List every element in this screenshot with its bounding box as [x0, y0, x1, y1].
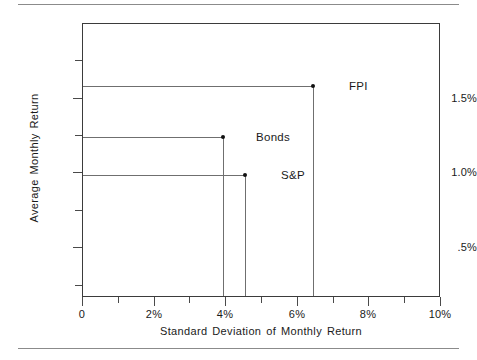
data-point-marker	[243, 173, 247, 177]
x-tick-mark	[368, 297, 369, 306]
x-tick-mark	[404, 297, 405, 303]
plot-area	[82, 23, 440, 297]
x-tick-label: 10%	[415, 309, 465, 320]
leader-line-horizontal	[83, 137, 223, 138]
series-label-bonds: Bonds	[256, 131, 290, 143]
y-tick-label: 1.5%	[409, 93, 477, 104]
x-tick-label: 2%	[129, 309, 179, 320]
data-point-marker	[311, 84, 315, 88]
y-axis-title: Average Monthly Return	[28, 58, 40, 258]
x-tick-mark	[440, 297, 441, 306]
x-axis-title: Standard Deviation of Monthly Return	[82, 325, 440, 337]
y-tick-label: 1.0%	[409, 167, 477, 178]
x-tick-mark	[261, 297, 262, 303]
x-tick-mark	[82, 297, 83, 306]
y-tick-mark	[73, 98, 82, 99]
series-label-fpi: FPI	[349, 80, 368, 92]
page-rule-top	[18, 4, 459, 5]
y-tick-mark	[73, 247, 82, 248]
x-tick-mark	[297, 297, 298, 306]
leader-line-vertical	[313, 86, 314, 296]
y-tick-label: .5%	[409, 242, 477, 253]
x-tick-label: 8%	[343, 309, 393, 320]
leader-line-horizontal	[83, 86, 313, 87]
x-tick-mark	[189, 297, 190, 303]
x-tick-label: 6%	[272, 309, 322, 320]
leader-line-vertical	[245, 175, 246, 296]
leader-line-horizontal	[83, 175, 245, 176]
y-tick-mark	[75, 135, 82, 136]
x-tick-mark	[225, 297, 226, 306]
x-tick-mark	[154, 297, 155, 306]
page-rule-bottom	[18, 348, 459, 349]
y-tick-mark	[75, 60, 82, 61]
y-tick-mark	[75, 285, 82, 286]
chart-figure: 1.5%1.0%.5% 02%4%6%8%10% FPIBondsS&P Sta…	[0, 0, 477, 360]
x-tick-label: 4%	[200, 309, 250, 320]
x-tick-mark	[333, 297, 334, 303]
x-tick-mark	[118, 297, 119, 303]
data-point-marker	[221, 135, 225, 139]
x-tick-label: 0	[57, 309, 107, 320]
series-label-s-p: S&P	[281, 169, 305, 181]
y-tick-mark	[75, 210, 82, 211]
leader-line-vertical	[223, 137, 224, 296]
y-tick-mark	[73, 172, 82, 173]
